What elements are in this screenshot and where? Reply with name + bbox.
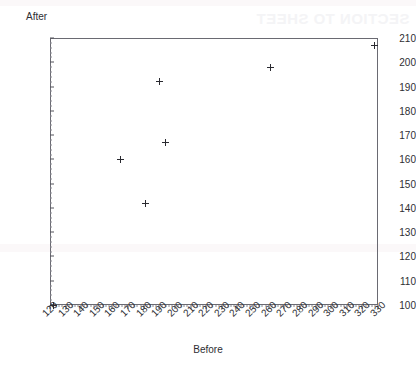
y-tick-minor bbox=[50, 96, 52, 97]
y-tick-minor bbox=[50, 154, 52, 155]
y-tick-minor bbox=[50, 52, 52, 53]
y-tick-major bbox=[50, 232, 54, 233]
y-tick-minor bbox=[50, 57, 52, 58]
y-tick-major bbox=[50, 207, 54, 208]
x-axis-title: Before bbox=[0, 344, 416, 355]
y-tick-minor bbox=[50, 222, 52, 223]
y-tick-minor bbox=[50, 67, 52, 68]
y-tick-minor bbox=[50, 261, 52, 262]
y-tick-minor bbox=[50, 193, 52, 194]
y-tick-minor bbox=[50, 164, 52, 165]
y-tick-major bbox=[50, 135, 54, 136]
y-tick-minor bbox=[50, 42, 52, 43]
y-axis-title: After bbox=[26, 11, 47, 22]
y-tick-minor bbox=[50, 275, 52, 276]
y-tick-minor bbox=[50, 149, 52, 150]
scan-bleedthrough-watermark: SECTION TO SHEET bbox=[256, 10, 410, 27]
data-point-marker bbox=[117, 156, 124, 163]
y-tick-minor bbox=[50, 169, 52, 170]
y-tick-label: 130 bbox=[392, 227, 416, 238]
y-tick-label: 170 bbox=[392, 130, 416, 141]
data-point-marker bbox=[371, 42, 378, 49]
data-point-marker bbox=[156, 78, 163, 85]
y-tick-major bbox=[50, 86, 54, 87]
y-tick-minor bbox=[50, 237, 52, 238]
y-tick-label: 120 bbox=[392, 251, 416, 262]
y-tick-label: 210 bbox=[392, 33, 416, 44]
data-point-marker bbox=[162, 139, 169, 146]
y-tick-major bbox=[50, 62, 54, 63]
y-tick-major bbox=[50, 159, 54, 160]
data-point-marker bbox=[267, 64, 274, 71]
y-tick-minor bbox=[50, 290, 52, 291]
y-tick-label: 110 bbox=[392, 275, 416, 286]
y-tick-label: 200 bbox=[392, 57, 416, 68]
y-tick-minor bbox=[50, 203, 52, 204]
y-tick-minor bbox=[50, 266, 52, 267]
y-tick-minor bbox=[50, 198, 52, 199]
y-tick-major bbox=[50, 256, 54, 257]
y-tick-label: 160 bbox=[392, 154, 416, 165]
y-tick-minor bbox=[50, 130, 52, 131]
y-tick-minor bbox=[50, 120, 52, 121]
y-tick-minor bbox=[50, 295, 52, 296]
y-tick-label: 150 bbox=[392, 178, 416, 189]
y-tick-label: 100 bbox=[392, 300, 416, 311]
y-tick-minor bbox=[50, 188, 52, 189]
y-tick-major bbox=[50, 110, 54, 111]
y-tick-label: 180 bbox=[392, 105, 416, 116]
y-tick-minor bbox=[50, 251, 52, 252]
y-tick-minor bbox=[50, 105, 52, 106]
y-tick-minor bbox=[50, 47, 52, 48]
y-tick-minor bbox=[50, 217, 52, 218]
y-tick-minor bbox=[50, 285, 52, 286]
scatter-plot-figure: SECTION TO SHEET After Before 1001101201… bbox=[0, 0, 416, 365]
y-tick-minor bbox=[50, 212, 52, 213]
y-tick-minor bbox=[50, 115, 52, 116]
y-tick-minor bbox=[50, 246, 52, 247]
y-tick-minor bbox=[50, 227, 52, 228]
y-tick-minor bbox=[50, 144, 52, 145]
y-tick-minor bbox=[50, 241, 52, 242]
y-tick-major bbox=[50, 38, 54, 39]
y-tick-minor bbox=[50, 101, 52, 102]
y-tick-major bbox=[50, 183, 54, 184]
y-tick-minor bbox=[50, 81, 52, 82]
y-tick-minor bbox=[50, 76, 52, 77]
y-tick-minor bbox=[50, 139, 52, 140]
plot-area bbox=[50, 38, 378, 305]
y-tick-minor bbox=[50, 125, 52, 126]
data-point-marker bbox=[142, 200, 149, 207]
scan-artifact-band-top bbox=[0, 0, 416, 6]
y-tick-minor bbox=[50, 173, 52, 174]
y-tick-minor bbox=[50, 271, 52, 272]
y-tick-label: 140 bbox=[392, 202, 416, 213]
y-tick-major bbox=[50, 280, 54, 281]
y-tick-label: 190 bbox=[392, 81, 416, 92]
y-tick-minor bbox=[50, 71, 52, 72]
y-tick-minor bbox=[50, 178, 52, 179]
y-tick-minor bbox=[50, 91, 52, 92]
